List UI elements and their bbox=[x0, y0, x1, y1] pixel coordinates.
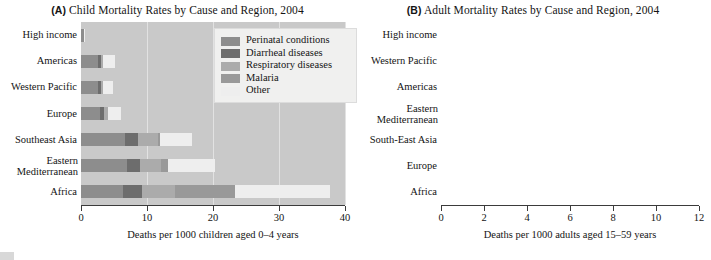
bar-segment bbox=[81, 55, 98, 68]
bar-southeast-asia bbox=[81, 133, 192, 146]
bar-segment bbox=[161, 159, 168, 172]
figure-container: (A) Child Mortality Rates by Cause and R… bbox=[0, 0, 711, 260]
legend-label: Diarrheal diseases bbox=[246, 47, 323, 59]
panel-a-title-text: Child Mortality Rates by Cause and Regio… bbox=[69, 4, 304, 16]
bar-europe bbox=[81, 107, 121, 120]
category-label-africa: Africa bbox=[410, 186, 437, 197]
category-label-western-pacific: Western Pacific bbox=[11, 81, 77, 92]
bar-segment bbox=[160, 133, 192, 146]
legend-swatch-icon bbox=[221, 87, 240, 96]
bar-western-pacific bbox=[81, 81, 113, 94]
bar-high-income bbox=[81, 29, 85, 42]
legend-item[interactable]: Diarrheal diseases bbox=[221, 47, 349, 59]
axis-tick-label: 10 bbox=[643, 212, 669, 223]
panel-b-title: (B) Adult Mortality Rates by Cause and R… bbox=[355, 4, 711, 16]
axis-tick-label: 10 bbox=[134, 212, 160, 223]
category-label-europe: Europe bbox=[407, 160, 437, 171]
bar-segment bbox=[235, 185, 330, 198]
axis-tick-label: 6 bbox=[557, 212, 583, 223]
axis-tick bbox=[570, 206, 571, 211]
bar-segment bbox=[140, 159, 160, 172]
panel-a-title: (A) Child Mortality Rates by Cause and R… bbox=[0, 4, 355, 16]
axis-tick bbox=[345, 206, 346, 211]
legend-label: Other bbox=[246, 84, 270, 96]
bar-africa bbox=[81, 185, 330, 198]
panel-b-tag: (B) bbox=[407, 4, 422, 16]
bar-eastern-mediterranean bbox=[81, 159, 215, 172]
bar-segment bbox=[81, 81, 98, 94]
axis-tick bbox=[613, 206, 614, 211]
panel-b-title-text: Adult Mortality Rates by Cause and Regio… bbox=[424, 4, 659, 16]
page-edge-artifact bbox=[0, 252, 14, 260]
axis-tick bbox=[484, 206, 485, 211]
bar-segment bbox=[125, 133, 139, 146]
x-axis-title-b: Deaths per 1000 adults aged 15–59 years bbox=[441, 229, 699, 240]
category-label-high-income: High income bbox=[22, 29, 77, 40]
axis-tick-label: 0 bbox=[68, 212, 94, 223]
axis-tick-label: 20 bbox=[200, 212, 226, 223]
legend-item[interactable]: Respiratory diseases bbox=[221, 59, 349, 71]
bar-segment bbox=[103, 55, 115, 68]
axis-tick-label: 4 bbox=[514, 212, 540, 223]
axis-tick-label: 8 bbox=[600, 212, 626, 223]
legend-item[interactable]: Malaria bbox=[221, 72, 349, 84]
legend-swatch-icon bbox=[221, 37, 240, 46]
category-label-africa: Africa bbox=[50, 186, 77, 197]
panel-a-child-mortality: (A) Child Mortality Rates by Cause and R… bbox=[0, 0, 355, 260]
bar-segment bbox=[84, 29, 85, 42]
axis-tick bbox=[81, 206, 82, 211]
axis-tick-label: 0 bbox=[428, 212, 454, 223]
axis-tick bbox=[147, 206, 148, 211]
axis-tick bbox=[527, 206, 528, 211]
legend-label: Perinatal conditions bbox=[246, 34, 330, 46]
bar-segment bbox=[108, 107, 121, 120]
category-label-americas: Americas bbox=[397, 81, 437, 92]
category-label-americas: Americas bbox=[37, 55, 77, 66]
panel-b-adult-mortality: (B) Adult Mortality Rates by Cause and R… bbox=[355, 0, 711, 260]
axis-tick bbox=[213, 206, 214, 211]
bar-segment bbox=[127, 159, 141, 172]
axis-tick-label: 30 bbox=[266, 212, 292, 223]
axis-tick-label: 2 bbox=[471, 212, 497, 223]
bar-segment bbox=[81, 133, 125, 146]
category-label-south-east-asia: South-East Asia bbox=[370, 134, 437, 145]
panel-a-tag: (A) bbox=[51, 4, 66, 16]
bar-segment bbox=[175, 185, 235, 198]
legend-swatch-icon bbox=[221, 74, 240, 83]
legend-label: Malaria bbox=[246, 72, 279, 84]
legend-item[interactable]: Perinatal conditions bbox=[221, 34, 349, 46]
bar-segment bbox=[81, 185, 123, 198]
legend-item[interactable]: Other bbox=[221, 84, 349, 96]
category-label-eastern-mediterranean: Eastern Mediterranean bbox=[0, 155, 78, 177]
bar-segment bbox=[123, 185, 142, 198]
legend-a: Perinatal conditionsDiarrheal diseasesRe… bbox=[214, 28, 357, 103]
axis-tick bbox=[279, 206, 280, 211]
axis-tick bbox=[699, 206, 700, 211]
axis-tick bbox=[441, 206, 442, 211]
bar-segment bbox=[81, 107, 100, 120]
category-label-eastern-mediterranean: Eastern Mediterranean bbox=[360, 103, 438, 125]
gridline bbox=[147, 22, 148, 205]
category-label-high-income: High income bbox=[382, 29, 437, 40]
axis-tick-label: 12 bbox=[686, 212, 711, 223]
bar-segment bbox=[168, 159, 215, 172]
category-label-western-pacific: Western Pacific bbox=[371, 55, 437, 66]
x-axis-title-a: Deaths per 1000 children aged 0–4 years bbox=[81, 229, 345, 240]
axis-tick bbox=[656, 206, 657, 211]
bar-segment bbox=[81, 159, 127, 172]
legend-label: Respiratory diseases bbox=[246, 59, 332, 71]
bar-segment bbox=[138, 133, 157, 146]
category-label-southeast-asia: Southeast Asia bbox=[15, 134, 77, 145]
bar-americas bbox=[81, 55, 115, 68]
bar-segment bbox=[103, 81, 113, 94]
legend-swatch-icon bbox=[221, 62, 240, 71]
legend-swatch-icon bbox=[221, 49, 240, 58]
category-label-europe: Europe bbox=[47, 108, 77, 119]
bar-segment bbox=[142, 185, 174, 198]
